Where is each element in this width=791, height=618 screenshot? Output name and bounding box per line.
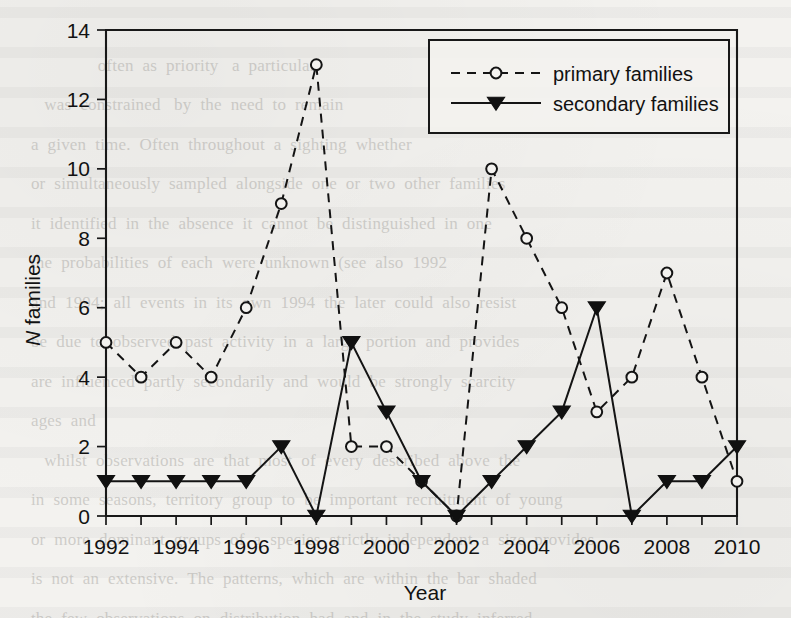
- chart-svg: 02468101214 1992199419961998200020022004…: [0, 0, 791, 618]
- data-point-open-circle-marker: [381, 441, 392, 452]
- x-tick-label: 1996: [223, 535, 270, 558]
- data-point-open-circle-marker: [591, 406, 602, 417]
- y-tick-label: 14: [67, 19, 91, 42]
- x-axis-title: Year: [404, 581, 446, 604]
- x-tick-label: 2006: [573, 535, 620, 558]
- data-point-open-circle-marker: [556, 302, 567, 313]
- data-point-open-circle-marker: [241, 302, 252, 313]
- data-point-triangle-marker: [378, 406, 395, 419]
- data-point-open-circle-marker: [486, 163, 497, 174]
- y-tick-label: 0: [78, 505, 90, 528]
- x-tick-label: 2008: [644, 535, 691, 558]
- data-point-open-circle-marker: [626, 372, 637, 383]
- data-point-open-circle-marker: [276, 198, 287, 209]
- y-tick-label: 12: [67, 88, 90, 111]
- x-tick-label: 1998: [293, 535, 340, 558]
- legend-open-circle-icon: [491, 68, 502, 79]
- x-tick-label: 2002: [433, 535, 480, 558]
- data-point-open-circle-marker: [661, 268, 672, 279]
- data-point-triangle-marker: [588, 302, 605, 315]
- legend-box: [429, 40, 729, 133]
- y-tick-label: 8: [78, 227, 90, 250]
- x-axis-ticks: 1992199419961998200020022004200620082010: [83, 516, 761, 558]
- x-tick-label: 1992: [83, 535, 130, 558]
- series-secondary-families: [98, 302, 746, 523]
- y-tick-label: 10: [67, 157, 90, 180]
- figure-container: 02468101214 1992199419961998200020022004…: [0, 0, 791, 618]
- chart-legend: primary familiessecondary families: [429, 40, 729, 133]
- y-tick-label: 4: [78, 366, 90, 389]
- y-tick-label: 6: [78, 296, 90, 319]
- data-point-open-circle-marker: [346, 441, 357, 452]
- x-tick-label: 1994: [153, 535, 200, 558]
- y-tick-label: 2: [78, 435, 90, 458]
- x-tick-label: 2004: [503, 535, 550, 558]
- data-point-open-circle-marker: [311, 59, 322, 70]
- y-axis-title: N families: [21, 254, 44, 346]
- x-tick-label: 2010: [714, 535, 761, 558]
- data-point-open-circle-marker: [697, 372, 708, 383]
- data-point-open-circle-marker: [521, 233, 532, 244]
- data-point-open-circle-marker: [206, 372, 217, 383]
- data-point-open-circle-marker: [136, 372, 147, 383]
- data-point-triangle-marker: [343, 337, 360, 350]
- legend-label: primary families: [553, 63, 693, 85]
- legend-label: secondary families: [553, 93, 719, 115]
- y-axis-ticks: 02468101214: [67, 19, 106, 528]
- data-point-open-circle-marker: [171, 337, 182, 348]
- data-point-open-circle-marker: [732, 476, 743, 487]
- data-point-open-circle-marker: [101, 337, 112, 348]
- x-tick-label: 2000: [363, 535, 410, 558]
